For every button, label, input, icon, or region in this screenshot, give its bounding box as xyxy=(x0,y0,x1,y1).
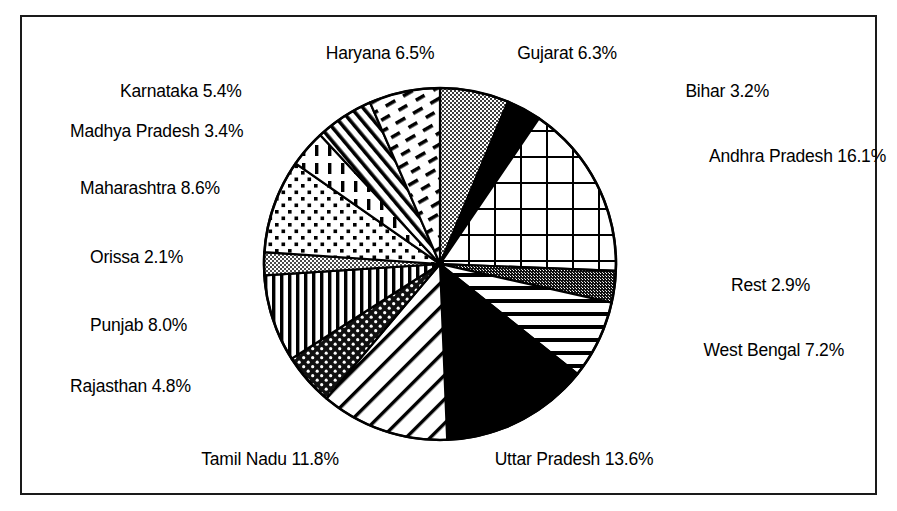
slice-label-andhra-pradesh: Andhra Pradesh 16.1% xyxy=(616,148,886,166)
slice-label-haryana: Haryana 6.5% xyxy=(280,45,480,63)
slice-label-madhya-pradesh: Madhya Pradesh 3.4% xyxy=(70,123,350,141)
slice-label-rest: Rest 2.9% xyxy=(630,277,810,295)
slice-label-rajasthan: Rajasthan 4.8% xyxy=(70,378,274,396)
pie-chart: Gujarat 6.3%Bihar 3.2%Andhra Pradesh 16.… xyxy=(0,0,897,511)
slice-label-orissa: Orissa 2.1% xyxy=(90,249,253,267)
slice-label-bihar: Bihar 3.2% xyxy=(539,83,769,101)
slice-label-gujarat: Gujarat 6.3% xyxy=(462,45,672,63)
slice-label-karnataka: Karnataka 5.4% xyxy=(120,83,360,101)
pie-slice-group: Gujarat 6.3%Bihar 3.2%Andhra Pradesh 16.… xyxy=(264,88,616,440)
slice-label-tamil-nadu: Tamil Nadu 11.8% xyxy=(150,451,390,469)
slice-label-west-bengal: West Bengal 7.2% xyxy=(614,342,844,360)
slice-label-uttar-pradesh: Uttar Pradesh 13.6% xyxy=(444,451,704,469)
slice-label-maharashtra: Maharashtra 8.6% xyxy=(80,180,345,198)
slice-label-punjab: Punjab 8.0% xyxy=(90,317,257,335)
